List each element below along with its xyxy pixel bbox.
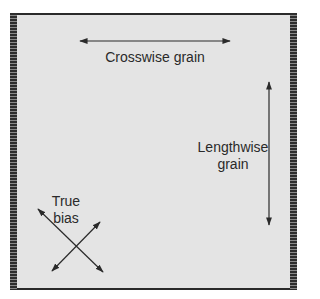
bias-label-line1: True (46, 193, 86, 210)
lengthwise-grain-label: Lengthwise grain (190, 139, 276, 173)
crosswise-grain-label: Crosswise grain (105, 49, 205, 66)
bias-label-line2: bias (46, 210, 86, 227)
lengthwise-label-line2: grain (190, 156, 276, 173)
lengthwise-label-line1: Lengthwise (190, 139, 276, 156)
true-bias-label: True bias (46, 193, 86, 227)
